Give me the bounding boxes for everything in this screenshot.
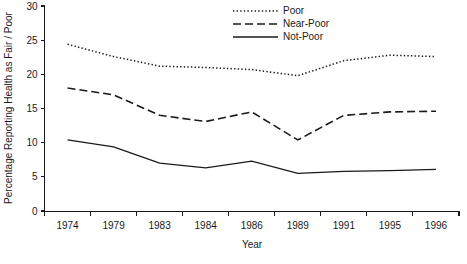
y-tick-label: 10 <box>26 137 38 148</box>
line-chart: 051015202530 197419791983198419861989199… <box>0 0 467 264</box>
y-axis-ticks: 051015202530 <box>26 1 44 217</box>
y-tick-label: 25 <box>26 35 38 46</box>
x-tick-label: 1996 <box>425 220 448 231</box>
series-line-poor <box>68 44 436 75</box>
legend-label-not-poor: Not-Poor <box>283 31 324 42</box>
x-axis-title: Year <box>242 239 263 250</box>
y-tick-label: 30 <box>26 1 38 12</box>
x-tick-label: 1991 <box>333 220 356 231</box>
x-axis-ticks: 197419791983198419861989199119951996 <box>45 211 460 231</box>
series-line-not-poor <box>68 140 436 173</box>
y-tick-label: 5 <box>32 171 38 182</box>
legend-label-near-poor: Near-Poor <box>283 18 330 29</box>
y-tick-label: 20 <box>26 69 38 80</box>
x-tick-label: 1979 <box>102 220 125 231</box>
x-tick-label: 1984 <box>195 220 218 231</box>
chart-figure: 051015202530 197419791983198419861989199… <box>0 0 467 264</box>
y-tick-label: 15 <box>26 103 38 114</box>
chart-legend: PoorNear-PoorNot-Poor <box>233 5 330 42</box>
x-tick-label: 1974 <box>56 220 79 231</box>
x-tick-label: 1989 <box>287 220 310 231</box>
x-tick-label: 1983 <box>149 220 172 231</box>
y-tick-label: 0 <box>32 206 38 217</box>
x-tick-label: 1986 <box>241 220 264 231</box>
legend-label-poor: Poor <box>283 5 305 16</box>
series-line-near-poor <box>68 88 436 140</box>
series-lines <box>68 44 436 173</box>
x-tick-label: 1995 <box>379 220 402 231</box>
y-axis-title: Percentage Reporting Health as Fair / Po… <box>3 11 14 203</box>
